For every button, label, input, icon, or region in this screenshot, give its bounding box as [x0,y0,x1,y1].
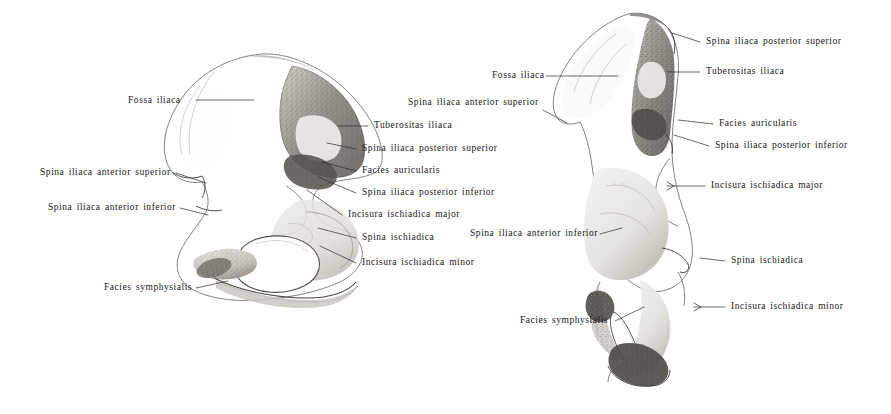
label-l-tuberositas: Tuberositas iliaca [374,121,452,131]
label-l-inc-minor: Incisura ischiadica minor [362,258,475,268]
svg-text:A. lin.: A. lin. [612,181,628,187]
label-l-spina-isch: Spina ischiadica [362,233,434,243]
label-l-facies-symph: Facies symphysialis [104,283,192,293]
label-l-siai: Spina iliaca anterior inferior [48,203,176,213]
label-l-inc-major: Incisura ischiadica major [348,210,460,220]
label-l-sias-2: Spina iliaca anterior superior [408,98,539,108]
label-r-tuberositas: Tuberositas iliaca [706,67,784,77]
label-l-sias: Spina iliaca anterior superior [40,168,171,178]
label-r-facies-aur: Facies auricularis [719,119,797,129]
label-r-sipi: Spina iliaca posterior inferior [715,141,848,151]
label-l-sips: Spina iliaca posterior superior [362,144,497,154]
label-l-fossa-iliaca: Fossa iliaca [128,96,181,106]
label-r-fossa-iliaca: Fossa iliaca [492,71,545,81]
label-r-spina-isch: Spina ischiadica [731,256,803,266]
label-r-inc-minor: Incisura ischiadica minor [731,302,844,312]
anatomical-plate: A. lin. [0,0,891,414]
label-r-siai: Spina iliaca anterior inferior [470,229,598,239]
label-l-facies-aur: Facies auricularis [362,166,440,176]
label-r-sips: Spina iliaca posterior superior [706,37,841,47]
label-r-facies-symph: Facies symphysialis [520,316,608,326]
label-r-inc-major: Incisura ischiadica major [711,181,823,191]
label-l-sipi: Spina iliaca posterior inferior [362,188,495,198]
